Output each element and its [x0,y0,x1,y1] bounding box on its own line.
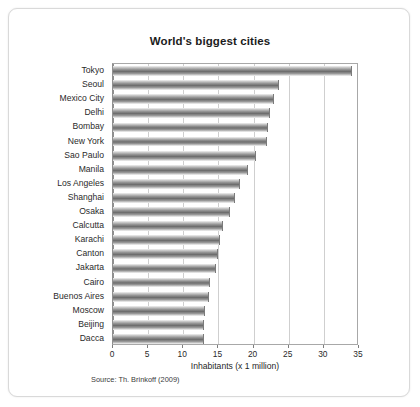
y-axis-label: New York [68,134,104,148]
y-axis-label: Karachi [75,232,104,246]
y-axis-label: Calcutta [72,218,104,232]
y-axis-category-labels: TokyoSeoulMexico CityDelhiBombayNew York… [9,63,108,345]
bar-row [113,247,357,261]
y-axis-label: Manila [79,162,104,176]
bar [113,221,223,231]
bar-row [113,135,357,149]
bar [113,193,235,203]
bar [113,66,352,76]
y-axis-label: Seoul [82,77,104,91]
x-axis-title: Inhabitants (x 1 million) [112,361,358,371]
y-axis-label: Canton [76,246,104,260]
bar-row [113,205,357,219]
y-axis-label: Los Angeles [57,176,104,190]
bar [113,80,279,90]
bar-row [113,120,357,134]
bar-row [113,191,357,205]
source-note: Source: Th. Brinkoff (2009) [91,375,179,384]
plot-area [112,63,358,345]
bar [113,94,274,104]
x-tick-mark [182,345,183,348]
figure-card: World's biggest cities TokyoSeoulMexico … [8,8,410,397]
bar [113,292,209,302]
bar [113,151,256,161]
x-tick-mark [217,345,218,348]
bar [113,108,270,118]
bar-row [113,332,357,345]
bar-row [113,290,357,304]
x-tick-label: 25 [283,349,292,359]
y-axis-label: Shanghai [68,190,104,204]
y-axis-label: Moscow [72,303,104,317]
bar [113,179,240,189]
x-tick-mark [253,345,254,348]
y-axis-label: Osaka [79,204,104,218]
y-axis-label: Sao Paulo [64,148,104,162]
chart-title: World's biggest cities [9,35,411,47]
bar [113,264,216,274]
x-tick-mark [358,345,359,348]
y-axis-label: Bombay [72,119,104,133]
bar-row [113,261,357,275]
x-tick-label: 20 [248,349,257,359]
y-axis-label: Dacca [80,331,104,345]
bar-row [113,163,357,177]
y-axis-label: Beijing [78,317,104,331]
bar [113,278,210,288]
bar-row [113,78,357,92]
bar-row [113,106,357,120]
x-tick-label: 15 [213,349,222,359]
bar [113,235,220,245]
bar-row [113,233,357,247]
bar [113,165,248,175]
x-tick-label: 30 [318,349,327,359]
bar-row [113,304,357,318]
y-axis-label: Buenos Aires [53,289,104,303]
y-axis-label: Delhi [84,105,104,119]
bar-row [113,219,357,233]
bar [113,334,204,344]
bar-series [113,64,357,344]
y-axis-label: Jakarta [76,260,104,274]
x-tick-label: 5 [145,349,150,359]
bar [113,249,218,259]
x-tick-mark [288,345,289,348]
bar-row [113,177,357,191]
bar-row [113,318,357,332]
bar-row [113,64,357,78]
bar-row [113,149,357,163]
x-tick-label: 35 [353,349,362,359]
bar [113,207,230,217]
y-axis-label: Mexico City [60,91,104,105]
x-tick-label: 0 [110,349,115,359]
bar [113,137,267,147]
x-tick-mark [323,345,324,348]
bar [113,306,205,316]
bar [113,320,204,330]
x-tick-mark [112,345,113,348]
bar-row [113,276,357,290]
y-axis-label: Tokyo [82,63,104,77]
bar [113,123,268,133]
bar-row [113,92,357,106]
x-tick-mark [147,345,148,348]
x-tick-label: 10 [178,349,187,359]
y-axis-label: Cairo [83,275,104,289]
